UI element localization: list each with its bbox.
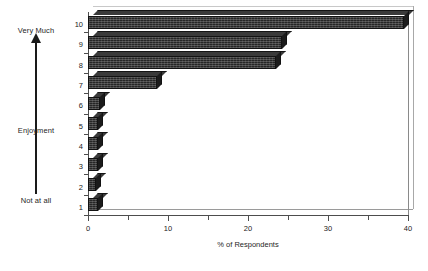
bar-side-face (98, 112, 103, 130)
y-tick (84, 174, 88, 175)
bar-side-face (98, 153, 103, 171)
x-tick (88, 216, 89, 221)
x-axis-title: % of Respondents (88, 240, 408, 249)
y-tick-label-10: 10 (75, 20, 83, 29)
bar-row (88, 195, 103, 215)
enjoyment-bar-chart: Very Much Enjoyment Not at all 123456789… (0, 0, 428, 271)
bar-side-face (98, 193, 103, 211)
x-tick-label-30: 30 (324, 224, 332, 233)
x-tick (328, 216, 329, 221)
x-minor-tick (368, 216, 369, 220)
bar-side-face (276, 51, 281, 69)
bar-row (88, 73, 162, 93)
bar-side-face (98, 132, 103, 150)
bar-side-face (100, 92, 105, 110)
x-minor-tick (128, 216, 129, 220)
x-tick (408, 216, 409, 221)
y-tick-label-1: 1 (79, 202, 83, 211)
x-tick (248, 216, 249, 221)
x-minor-tick (288, 216, 289, 220)
x-tick-label-40: 40 (404, 224, 412, 233)
plot-frame-right-back (413, 6, 414, 209)
y-tick (84, 154, 88, 155)
bar-10 (88, 16, 404, 29)
bar-1 (88, 198, 98, 211)
x-tick-label-20: 20 (244, 224, 252, 233)
y-tick (84, 195, 88, 196)
y-tick-label-3: 3 (79, 162, 83, 171)
y-tick (84, 53, 88, 54)
plot-area: 12345678910 010203040 (88, 12, 408, 215)
x-tick-label-0: 0 (86, 224, 90, 233)
bar-side-face (96, 173, 101, 191)
y-tick-label-2: 2 (79, 182, 83, 191)
bar-9 (88, 36, 282, 49)
y-axis-title: Enjoyment (4, 126, 68, 135)
bar-5 (88, 117, 98, 130)
plot-frame-top (93, 6, 413, 7)
bar-side-face (157, 71, 162, 89)
bar-side-face (282, 31, 287, 49)
bar-row (88, 53, 281, 73)
bar-8 (88, 56, 276, 69)
bar-row (88, 154, 103, 174)
bar-4 (88, 137, 98, 150)
y-tick-label-6: 6 (79, 101, 83, 110)
bar-side-face (404, 11, 409, 29)
y-tick (84, 93, 88, 94)
y-tick (84, 73, 88, 74)
y-tick-label-7: 7 (79, 81, 83, 90)
bar-row (88, 134, 103, 154)
y-tick-label-5: 5 (79, 121, 83, 130)
bar-2 (88, 178, 96, 191)
y-tick (84, 134, 88, 135)
x-tick-label-10: 10 (164, 224, 172, 233)
plot-frame-floor-back (93, 209, 413, 210)
plot-frame-right (408, 12, 409, 215)
bar-row (88, 114, 103, 134)
y-tick-label-8: 8 (79, 60, 83, 69)
bar-6 (88, 97, 100, 110)
x-tick (168, 216, 169, 221)
y-tick-label-4: 4 (79, 141, 83, 150)
scale-low-label: Not at all (4, 196, 68, 205)
bar-7 (88, 76, 157, 89)
up-arrow-icon (35, 42, 37, 194)
bar-row (88, 32, 287, 52)
y-tick-label-9: 9 (79, 40, 83, 49)
bar-3 (88, 158, 98, 171)
y-tick (84, 32, 88, 33)
bar-row (88, 93, 105, 113)
x-minor-tick (208, 216, 209, 220)
bar-row (88, 174, 101, 194)
y-tick (84, 114, 88, 115)
bar-row (88, 12, 409, 32)
